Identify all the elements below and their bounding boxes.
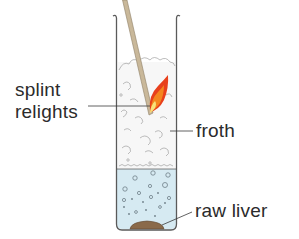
hydrogen-peroxide-liquid <box>117 169 176 229</box>
splint-label-line1: splint <box>15 79 78 101</box>
splint-label-line2: relights <box>15 101 78 123</box>
raw-liver-label: raw liver <box>195 200 268 222</box>
splint-relights-label: splint relights <box>15 79 78 123</box>
froth-label: froth <box>196 120 235 142</box>
froth <box>118 58 175 169</box>
